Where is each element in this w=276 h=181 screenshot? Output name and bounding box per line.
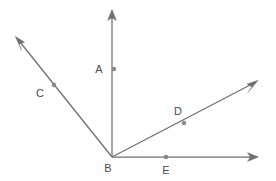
- ray-bc-arrowhead: [15, 36, 24, 50]
- point-d-dot: [182, 121, 186, 125]
- ray-bc-line: [20, 42, 112, 157]
- point-c-dot: [52, 83, 56, 87]
- ray-bd-line: [112, 84, 252, 157]
- point-label-b: B: [104, 162, 112, 174]
- point-label-d: D: [174, 105, 182, 117]
- ray-bc: [15, 36, 112, 157]
- diagram-canvas: A B C D E: [0, 0, 276, 181]
- point-e-dot: [164, 155, 168, 159]
- ray-be: [112, 153, 259, 162]
- point-a-dot: [112, 67, 116, 71]
- point-label-e: E: [162, 164, 170, 176]
- point-label-a: A: [95, 63, 103, 75]
- angle-diagram: A B C D E: [0, 0, 276, 181]
- point-label-c: C: [36, 87, 44, 99]
- ray-ba: [108, 10, 117, 158]
- ray-bd: [112, 80, 258, 157]
